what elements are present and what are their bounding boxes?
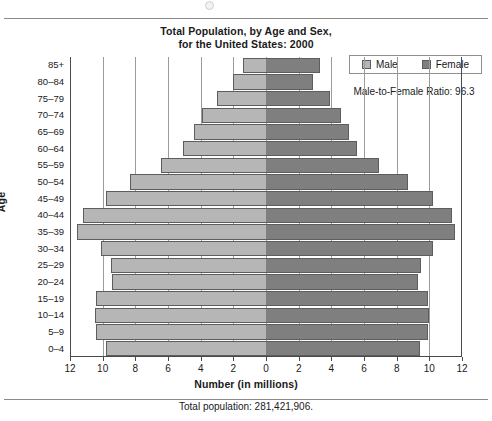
x-tick-mark — [331, 357, 332, 361]
x-tick-mark — [103, 357, 104, 361]
chart-title-line-2: for the United States: 2000 — [0, 38, 492, 51]
x-tick-label: 2 — [218, 363, 248, 375]
y-axis-tick-labels: 85+80–8475–7970–7465–6960–6455–5950–5445… — [14, 57, 64, 357]
age-label-65–69: 65–69 — [18, 126, 64, 137]
age-label-80–84: 80–84 — [18, 76, 64, 87]
x-tick-label: 2 — [284, 363, 314, 375]
x-tick-label: 0 — [251, 363, 281, 375]
age-label-20–24: 20–24 — [18, 276, 64, 287]
total-population-caption: Total population: 281,421,906. — [0, 401, 492, 412]
age-label-70–74: 70–74 — [18, 109, 64, 120]
plot-frame — [70, 57, 462, 357]
age-label-15–19: 15–19 — [18, 293, 64, 304]
age-label-45–49: 45–49 — [18, 193, 64, 204]
x-tick-label: 6 — [153, 363, 183, 375]
age-label-35–39: 35–39 — [18, 226, 64, 237]
age-label-50–54: 50–54 — [18, 176, 64, 187]
chart-title-line-1: Total Population, by Age and Sex, — [160, 25, 331, 37]
age-label-10–14: 10–14 — [18, 309, 64, 320]
age-label-0–4: 0–4 — [18, 343, 64, 354]
age-label-30–34: 30–34 — [18, 243, 64, 254]
x-tick-label: 4 — [186, 363, 216, 375]
x-tick-label: 4 — [316, 363, 346, 375]
x-tick-label: 10 — [414, 363, 444, 375]
x-tick-mark — [429, 357, 430, 361]
age-label-55–59: 55–59 — [18, 159, 64, 170]
age-label-60–64: 60–64 — [18, 143, 64, 154]
age-label-5–9: 5–9 — [18, 326, 64, 337]
x-tick-mark — [364, 357, 365, 361]
x-tick-mark — [266, 357, 267, 361]
x-tick-label: 8 — [120, 363, 150, 375]
x-tick-mark — [299, 357, 300, 361]
chart-title: Total Population, by Age and Sex, for th… — [0, 25, 492, 51]
x-tick-label: 6 — [349, 363, 379, 375]
age-label-85+: 85+ — [18, 59, 64, 70]
x-axis-title: Number (in millions) — [0, 378, 492, 390]
x-tick-mark — [233, 357, 234, 361]
x-tick-label: 8 — [382, 363, 412, 375]
x-tick-mark — [168, 357, 169, 361]
plot-area — [70, 57, 462, 357]
age-label-40–44: 40–44 — [18, 209, 64, 220]
x-tick-label: 10 — [88, 363, 118, 375]
age-label-25–29: 25–29 — [18, 259, 64, 270]
y-axis-title: Age — [0, 192, 7, 212]
x-tick-mark — [201, 357, 202, 361]
x-tick-mark — [135, 357, 136, 361]
x-tick-label: 12 — [55, 363, 85, 375]
x-tick-mark — [70, 357, 71, 361]
scan-artifact-speck — [205, 1, 214, 10]
age-label-75–79: 75–79 — [18, 93, 64, 104]
x-tick-mark — [462, 357, 463, 361]
x-tick-mark — [397, 357, 398, 361]
x-tick-label: 12 — [447, 363, 477, 375]
